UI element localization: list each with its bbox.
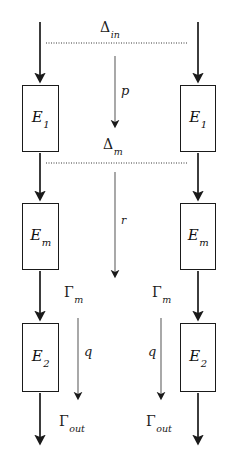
flow-label-r: r bbox=[121, 215, 126, 226]
process-box-label: E2 bbox=[189, 349, 206, 367]
flow-label-q-right: q bbox=[148, 345, 156, 358]
process-box-label: Em bbox=[30, 228, 50, 246]
flow-label-p: p bbox=[121, 84, 129, 97]
flow-label-q-left: q bbox=[84, 345, 92, 358]
process-box-label: E1 bbox=[189, 110, 206, 128]
process-box-left-em: Em bbox=[22, 203, 59, 270]
gamma-out-left-label: Γout bbox=[59, 414, 84, 431]
gamma-out-right-label: Γout bbox=[146, 414, 171, 431]
process-box-label: Em bbox=[188, 228, 208, 246]
gamma-m-left-label: Γm bbox=[64, 285, 83, 302]
process-box-left-e2: E2 bbox=[22, 323, 59, 392]
gamma-m-right-label: Γm bbox=[152, 285, 171, 302]
process-box-right-e1: E1 bbox=[180, 85, 216, 152]
process-box-right-e2: E2 bbox=[180, 323, 216, 392]
process-box-label: E2 bbox=[32, 349, 49, 367]
process-box-label: E1 bbox=[32, 110, 49, 128]
flow-diagram: E1 E1 Em Em E2 E2 Δin Δm p r q q Γm Γm Γ… bbox=[0, 0, 230, 457]
delta-m-label: Δm bbox=[103, 137, 122, 154]
process-box-right-em: Em bbox=[180, 203, 216, 270]
process-box-left-e1: E1 bbox=[22, 85, 59, 152]
delta-in-label: Δin bbox=[100, 20, 119, 37]
